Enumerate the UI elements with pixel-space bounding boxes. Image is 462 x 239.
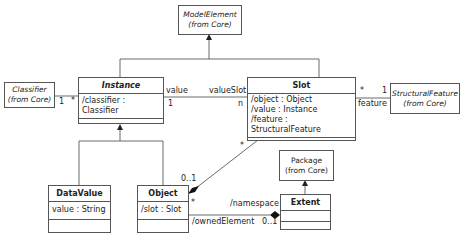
attribute: /value : Instance bbox=[251, 105, 352, 115]
role-value-slot: valueSlot bbox=[209, 86, 246, 96]
attribute: /object : Object bbox=[251, 95, 352, 105]
mult-slot-feature: * bbox=[360, 86, 364, 96]
class-package-stereo: (from Core) bbox=[285, 166, 328, 176]
class-slot-name: Slot bbox=[248, 78, 355, 94]
role-owned-element: /ownedElement bbox=[192, 217, 254, 227]
class-extent-attributes bbox=[281, 211, 330, 222]
mult-extent: 0..1 bbox=[262, 217, 277, 227]
class-extent[interactable]: Extent bbox=[280, 194, 331, 230]
class-classifier-name: Classifier bbox=[12, 85, 46, 95]
class-classifier[interactable]: Classifier (from Core) bbox=[4, 82, 55, 108]
attribute: value : String bbox=[52, 205, 107, 215]
role-namespace: /namespace bbox=[230, 199, 279, 209]
composition-diamond-object bbox=[188, 186, 199, 194]
composition-object-slot bbox=[196, 140, 258, 188]
attribute: /slot : Slot bbox=[141, 205, 185, 215]
class-slot[interactable]: Slot /object : Object /value : Instance … bbox=[247, 77, 356, 141]
class-model-element[interactable]: ModelElement (from Core) bbox=[178, 5, 242, 35]
class-object-attributes: /slot : Slot bbox=[138, 202, 188, 220]
generalization-arrowhead-instance bbox=[117, 124, 123, 130]
class-data-value-name: DataValue bbox=[49, 186, 110, 202]
class-object[interactable]: Object /slot : Slot bbox=[137, 185, 189, 233]
class-slot-attributes: /object : Object /value : Instance /feat… bbox=[248, 94, 355, 138]
class-data-value-attributes: value : String bbox=[49, 202, 110, 220]
mult-feature: 1 bbox=[382, 86, 387, 96]
class-instance-name: Instance bbox=[79, 78, 163, 94]
class-instance[interactable]: Instance /classifier : Classifier bbox=[78, 77, 164, 124]
attribute: /feature : StructuralFeature bbox=[251, 115, 352, 135]
class-extent-name: Extent bbox=[281, 195, 330, 211]
mult-value-slot: n bbox=[238, 99, 243, 109]
mult-object-slot: 0..1 bbox=[181, 174, 196, 184]
mult-object-extent: * bbox=[191, 198, 195, 208]
role-value: value bbox=[166, 86, 188, 96]
generalization-to-instance bbox=[79, 129, 163, 185]
mult-slot-object: * bbox=[240, 141, 244, 151]
class-instance-attributes: /classifier : Classifier bbox=[79, 94, 163, 119]
class-structural-feature[interactable]: StructuralFeature (from Core) bbox=[390, 83, 460, 114]
class-object-name: Object bbox=[138, 186, 188, 202]
class-package-name: Package bbox=[291, 156, 322, 166]
mult-value: 1 bbox=[168, 99, 173, 109]
class-package[interactable]: Package (from Core) bbox=[279, 150, 334, 181]
class-model-element-name: ModelElement bbox=[183, 10, 237, 20]
generalization-to-model-element bbox=[120, 40, 319, 77]
attribute: /classifier : Classifier bbox=[82, 96, 160, 116]
class-model-element-stereo: (from Core) bbox=[188, 20, 231, 30]
class-classifier-stereo: (from Core) bbox=[8, 95, 51, 105]
mult-classifier: 1 bbox=[59, 97, 64, 107]
mult-instance-classifier: * bbox=[71, 96, 75, 106]
role-feature: feature bbox=[358, 99, 387, 109]
class-structural-feature-stereo: (from Core) bbox=[403, 99, 446, 109]
class-structural-feature-name: StructuralFeature bbox=[392, 89, 458, 99]
class-data-value[interactable]: DataValue value : String bbox=[48, 185, 111, 233]
